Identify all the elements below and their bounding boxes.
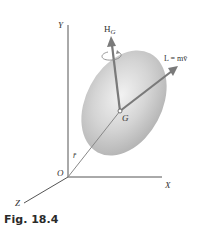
linear-momentum-label: L = mv̄ [164, 55, 187, 63]
angular-momentum-subscript: G [111, 28, 116, 36]
center-of-mass-label: G [122, 114, 129, 123]
figure-caption: Fig. 18.4 [4, 213, 58, 226]
y-axis-label: Y [58, 21, 63, 30]
origin-label: O [57, 169, 64, 178]
angular-momentum-label: HG [104, 25, 116, 36]
x-axis-label: X [165, 181, 171, 190]
position-vector-label: r̄ [73, 152, 76, 160]
z-axis-label: Z [15, 199, 20, 208]
figure-canvas: Y X Z O G r̄ HG L = mv̄ Fig. 18.4 [0, 0, 209, 233]
z-axis [24, 177, 68, 203]
